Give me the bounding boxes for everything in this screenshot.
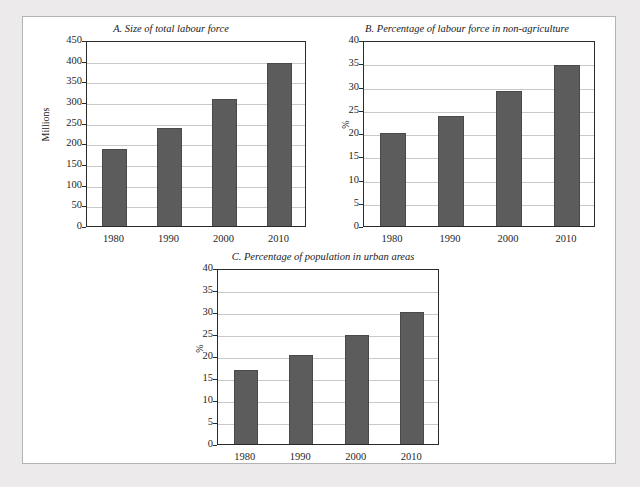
y-axis-tick-mark [359, 204, 363, 205]
y-axis-tick-label: 25 [321, 104, 359, 115]
x-axis-tick-label: 1980 [363, 233, 421, 244]
x-axis-tick-label: 1990 [141, 233, 196, 244]
y-axis-tick-mark [82, 82, 86, 83]
chart-c-title: C. Percentage of population in urban are… [173, 251, 473, 262]
y-axis-tick-mark [82, 186, 86, 187]
chart-b-percentage-of-labour-force-in-non-agriculture: B. Percentage of labour force in non-agr… [323, 23, 611, 251]
y-axis-tick-label: 5 [321, 197, 359, 208]
gridline [218, 292, 438, 293]
chart-c-percentage-of-population-in-urban-areas: C. Percentage of population in urban are… [173, 251, 473, 463]
bar [102, 149, 126, 227]
y-axis-tick-label: 15 [321, 150, 359, 161]
y-axis-tick-label: 350 [44, 75, 82, 86]
y-axis-tick-label: 400 [44, 55, 82, 66]
y-axis-tick-label: 40 [175, 262, 213, 273]
bar [212, 99, 236, 227]
y-axis-tick-label: 40 [321, 34, 359, 45]
y-axis-tick-label: 30 [175, 306, 213, 317]
chart-c-plot-area [217, 269, 439, 445]
y-axis-tick-mark [359, 181, 363, 182]
x-axis-tick-label: 2010 [384, 451, 440, 462]
y-axis-tick-label: 300 [44, 96, 82, 107]
y-axis-tick-label: 10 [321, 174, 359, 185]
y-axis-tick-label: 20 [175, 350, 213, 361]
y-axis-tick-mark [359, 157, 363, 158]
y-axis-tick-label: 200 [44, 137, 82, 148]
x-axis-tick-label: 2000 [479, 233, 537, 244]
x-axis-tick-label: 2000 [196, 233, 251, 244]
y-axis-tick-mark [82, 62, 86, 63]
x-axis-tick-label: 2000 [328, 451, 384, 462]
y-axis-tick-mark [82, 227, 86, 228]
x-axis-tick-label: 1980 [86, 233, 141, 244]
y-axis-tick-mark [82, 41, 86, 42]
y-axis-tick-mark [213, 379, 217, 380]
y-axis-tick-mark [213, 313, 217, 314]
y-axis-tick-label: 100 [44, 179, 82, 190]
y-axis-tick-mark [213, 423, 217, 424]
y-axis-tick-mark [213, 445, 217, 446]
y-axis-tick-label: 30 [321, 81, 359, 92]
y-axis-tick-mark [359, 64, 363, 65]
y-axis-tick-mark [82, 206, 86, 207]
y-axis-tick-mark [82, 103, 86, 104]
bar [496, 91, 522, 227]
bar [267, 63, 291, 227]
figure-panel: A. Size of total labour force Millions 0… [22, 16, 616, 464]
x-axis-tick-label: 2010 [251, 233, 306, 244]
bar [438, 116, 464, 227]
x-axis-tick-label: 1990 [421, 233, 479, 244]
chart-a-title: A. Size of total labour force [31, 23, 311, 34]
bar [345, 335, 369, 445]
y-axis-tick-mark [213, 335, 217, 336]
y-axis-tick-label: 25 [175, 328, 213, 339]
y-axis-tick-label: 250 [44, 117, 82, 128]
chart-b-title: B. Percentage of labour force in non-agr… [323, 23, 611, 34]
y-axis-tick-mark [213, 269, 217, 270]
y-axis-tick-mark [359, 41, 363, 42]
y-axis-tick-mark [359, 227, 363, 228]
y-axis-tick-label: 35 [321, 57, 359, 68]
y-axis-tick-label: 15 [175, 372, 213, 383]
y-axis-tick-label: 150 [44, 158, 82, 169]
y-axis-tick-label: 5 [175, 416, 213, 427]
y-axis-tick-mark [213, 401, 217, 402]
y-axis-tick-label: 0 [175, 438, 213, 449]
y-axis-tick-label: 50 [44, 199, 82, 210]
x-axis-tick-label: 2010 [537, 233, 595, 244]
y-axis-tick-label: 35 [175, 284, 213, 295]
y-axis-tick-mark [213, 291, 217, 292]
bar [380, 133, 406, 227]
y-axis-tick-mark [82, 124, 86, 125]
bar [554, 65, 580, 227]
y-axis-tick-mark [359, 134, 363, 135]
bar [400, 312, 424, 445]
y-axis-tick-mark [213, 357, 217, 358]
y-axis-tick-mark [359, 111, 363, 112]
y-axis-tick-mark [82, 165, 86, 166]
y-axis-tick-label: 450 [44, 34, 82, 45]
chart-a-size-of-total-labour-force: A. Size of total labour force Millions 0… [31, 23, 311, 251]
chart-a-plot-area [86, 41, 306, 227]
y-axis-tick-label: 20 [321, 127, 359, 138]
bar [234, 370, 258, 445]
bar [157, 128, 181, 227]
x-axis-tick-label: 1980 [217, 451, 273, 462]
y-axis-tick-mark [359, 88, 363, 89]
y-axis-tick-label: 0 [321, 220, 359, 231]
y-axis-tick-label: 0 [44, 220, 82, 231]
bar [289, 355, 313, 445]
chart-b-plot-area [363, 41, 595, 227]
x-axis-tick-label: 1990 [273, 451, 329, 462]
y-axis-tick-label: 10 [175, 394, 213, 405]
y-axis-tick-mark [82, 144, 86, 145]
